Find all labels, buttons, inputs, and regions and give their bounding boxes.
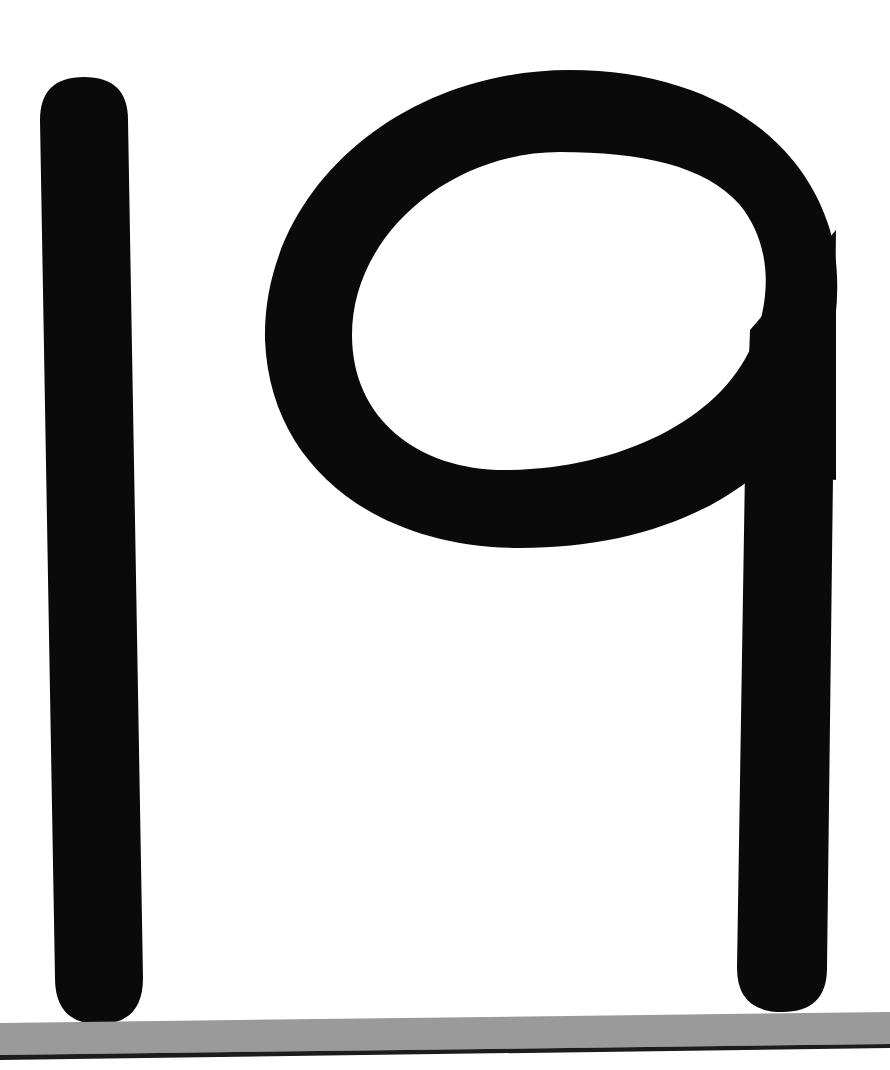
number-nineteen-figure: 19	[0, 0, 890, 1070]
digit-one	[40, 77, 143, 1024]
baseline-band	[0, 1012, 890, 1060]
digit-nine	[265, 70, 837, 1012]
figure-canvas	[0, 0, 890, 1070]
